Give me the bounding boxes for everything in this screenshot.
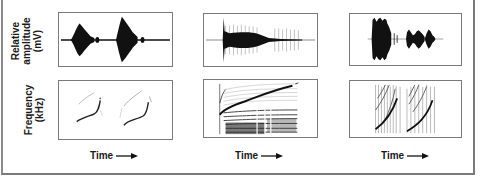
time-axis-label-2: Time <box>235 150 284 161</box>
waveform-panel-3 <box>349 13 462 66</box>
time-label-text: Time <box>90 150 113 161</box>
amplitude-label-line1: Relative <box>10 11 21 71</box>
spectrogram-panel-3 <box>349 80 462 138</box>
right-arrow-icon <box>260 152 284 160</box>
amplitude-label-line2: amplitude <box>21 11 32 71</box>
frequency-label-line2: (kHz) <box>34 80 45 140</box>
right-arrow-icon <box>115 152 139 160</box>
right-arrow-icon <box>406 152 430 160</box>
waveform-panel-2 <box>203 13 318 67</box>
spectrogram-panel-1 <box>58 80 173 140</box>
waveform-panel-1 <box>58 12 173 67</box>
frequency-label-line1: Frequency <box>23 80 34 140</box>
spectrogram-panel-2 <box>203 79 318 138</box>
amplitude-axis-label: Relative amplitude (mV) <box>10 11 44 71</box>
time-axis-label-1: Time <box>90 150 139 161</box>
time-axis-label-3: Time <box>381 150 430 161</box>
amplitude-label-line3: (mV) <box>32 11 43 71</box>
time-label-text: Time <box>235 150 258 161</box>
time-label-text: Time <box>381 150 404 161</box>
frequency-axis-label: Frequency (kHz) <box>23 80 47 140</box>
